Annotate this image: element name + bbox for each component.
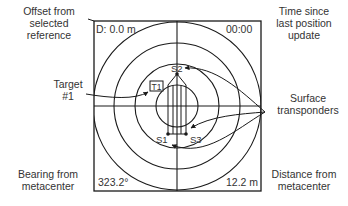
transponder-s3-dot: [184, 132, 188, 136]
distance-readout: 12.2 m: [226, 176, 258, 188]
transponder-s3-label: S3: [190, 134, 202, 145]
offset-readout: D: 0.0 m: [96, 23, 136, 35]
target-t1-label: T1: [152, 82, 162, 92]
offset-leader: [88, 19, 94, 21]
bearing-readout: 323.2°: [98, 176, 128, 188]
surface-leader-s3: [191, 112, 265, 128]
surface-leader-s2: [185, 68, 265, 112]
transponder-s1-label: S1: [156, 134, 168, 145]
time-readout: 00:00: [226, 23, 252, 35]
transponder-s2-label: S2: [171, 63, 183, 74]
target-leader-arrow: [86, 92, 148, 98]
positioning-display: S2 S1 S3 T1: [0, 0, 348, 206]
